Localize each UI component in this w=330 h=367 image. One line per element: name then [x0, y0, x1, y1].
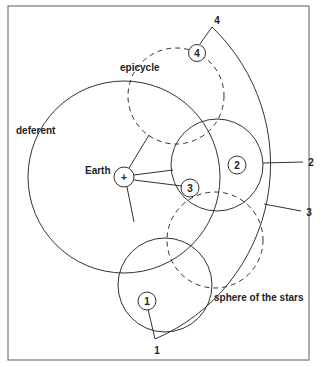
radius-to-epicycle-1 — [127, 187, 134, 222]
sightline-4 — [200, 27, 212, 44]
planet-label-4: 4 — [194, 48, 200, 59]
star-marker-4: 4 — [214, 15, 220, 26]
epicycle-2 — [171, 119, 263, 211]
planet-label-1: 1 — [144, 296, 150, 307]
epicycle-label: epicycle — [120, 62, 160, 73]
radius-to-epicycle-4 — [129, 135, 149, 168]
star-marker-1: 1 — [154, 345, 160, 356]
sightline-1 — [148, 309, 155, 339]
sightline-3 — [264, 204, 301, 211]
star-marker-2: 2 — [308, 157, 314, 168]
ptolemaic-diagram: + 4 2 3 1 4 2 3 1 epicycle deferent Eart… — [0, 0, 330, 367]
star-marker-3: 3 — [306, 207, 312, 218]
sightline-2 — [263, 162, 303, 163]
sphere-of-stars-label: sphere of the stars — [214, 292, 304, 303]
planet-label-2: 2 — [234, 160, 240, 171]
earth-symbol: + — [121, 172, 127, 183]
planet-label-3: 3 — [187, 183, 193, 194]
deferent-label: deferent — [16, 125, 56, 136]
earth-label: Earth — [85, 165, 111, 176]
radius-to-epicycle-2 — [134, 170, 173, 175]
